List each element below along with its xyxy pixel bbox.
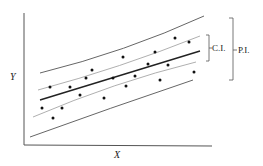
y-axis-label: Y bbox=[10, 71, 17, 82]
data-point bbox=[103, 97, 106, 100]
data-point bbox=[167, 64, 170, 67]
pi-bracket bbox=[229, 18, 237, 80]
data-point bbox=[112, 77, 115, 80]
data-point bbox=[61, 107, 64, 110]
data-point bbox=[147, 63, 150, 66]
data-point bbox=[41, 107, 44, 110]
data-point bbox=[91, 69, 94, 72]
data-point bbox=[159, 79, 162, 82]
data-point bbox=[122, 56, 125, 59]
ci-label: C.I. bbox=[212, 43, 226, 53]
data-point bbox=[154, 51, 157, 54]
regression-diagram: C.I. P.I. Y X bbox=[0, 0, 263, 166]
data-point bbox=[69, 86, 72, 89]
ci-lower-line bbox=[33, 62, 196, 117]
regression-line bbox=[40, 51, 200, 100]
data-point bbox=[52, 117, 55, 120]
data-point bbox=[188, 41, 191, 44]
data-point bbox=[134, 75, 137, 78]
data-point bbox=[125, 85, 128, 88]
data-point bbox=[79, 94, 82, 97]
ci-upper-line bbox=[38, 36, 200, 90]
x-axis bbox=[24, 145, 212, 146]
data-point bbox=[49, 86, 52, 89]
data-point bbox=[193, 71, 196, 74]
data-points bbox=[41, 37, 196, 120]
pi-label: P.I. bbox=[238, 45, 250, 55]
x-axis-label: X bbox=[113, 149, 121, 160]
data-point bbox=[174, 37, 177, 40]
data-point bbox=[85, 77, 88, 80]
